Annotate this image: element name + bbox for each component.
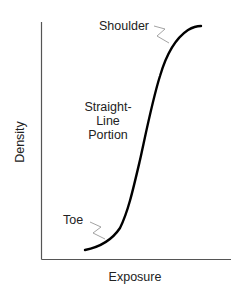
toe-leader-squiggle — [90, 222, 105, 239]
straight-line-portion-label: Straight- Line Portion — [80, 100, 136, 142]
straight-line-label-line-2: Line — [80, 114, 136, 128]
x-axis-label: Exposure — [100, 270, 170, 284]
shoulder-label: Shoulder — [99, 19, 149, 33]
clipped-caption-fragment — [0, 291, 246, 297]
toe-label: Toe — [63, 213, 83, 227]
straight-line-label-line-3: Portion — [80, 128, 136, 142]
y-axis-label: Density — [13, 121, 27, 163]
diagram-canvas — [0, 0, 246, 297]
straight-line-label-line-1: Straight- — [80, 100, 136, 114]
shoulder-leader-squiggle — [154, 26, 169, 43]
